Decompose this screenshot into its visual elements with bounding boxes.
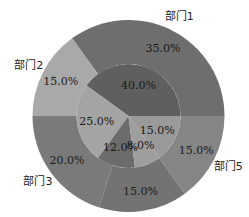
outer-pct-label: 15.0% [179,144,214,157]
inner-pct-label: 15.0% [140,124,175,137]
category-label: 部门3 [23,174,52,188]
category-label: 部门2 [14,58,43,72]
category-label: 部门5 [214,159,243,173]
nested-pie-chart: 35.0%15.0%20.0%15.0%15.0%40.0%25.0%12.0%… [0,0,249,217]
inner-pct-label: 8.0% [126,139,154,152]
inner-pct-label: 40.0% [121,79,156,92]
outer-pct-label: 15.0% [123,185,158,198]
category-label: 部门1 [165,9,194,23]
outer-pct-label: 15.0% [43,75,78,88]
outer-pct-label: 20.0% [50,154,85,167]
inner-pct-label: 25.0% [79,115,114,128]
outer-pct-label: 35.0% [146,42,181,55]
